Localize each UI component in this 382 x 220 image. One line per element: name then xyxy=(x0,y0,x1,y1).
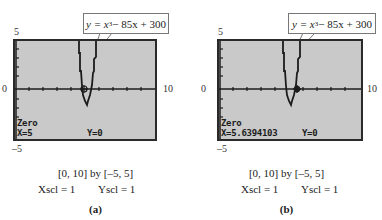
y-min-label: –5 xyxy=(12,143,22,154)
zero-mode-label: Zero xyxy=(221,119,241,128)
equation-callout: y = x3 − 85x + 300 xyxy=(83,13,169,34)
panel-b: y = x3 − 85x + 300 5 0 10 –5 xyxy=(191,0,382,220)
y-readout: Y=0 xyxy=(87,129,102,138)
x-min-label: 0 xyxy=(201,83,206,94)
equation-rest: − 85x + 300 xyxy=(318,18,372,30)
function-curve xyxy=(79,41,96,105)
x-min-label: 0 xyxy=(2,83,7,94)
equation-text: y = x xyxy=(86,18,109,30)
calculator-screen: Zero X=5.6394103 Y=0 xyxy=(217,39,363,141)
panel-label: (b) xyxy=(191,203,382,215)
panel-a: y = x3 − 85x + 300 5 0 10 –5 xyxy=(0,0,191,220)
y-max-label: 5 xyxy=(14,26,19,37)
yscl-label: Yscl = 1 xyxy=(301,183,338,195)
xscl-label: Xscl = 1 xyxy=(38,183,75,195)
window-range: [0, 10] by [–5, 5] xyxy=(191,167,382,179)
function-curve xyxy=(283,41,300,105)
x-readout: X=5.6394103 xyxy=(221,129,277,138)
y-readout: Y=0 xyxy=(302,129,317,138)
x-max-label: 10 xyxy=(367,83,377,94)
yscl-label: Yscl = 1 xyxy=(98,183,135,195)
xscl-label: Xscl = 1 xyxy=(241,183,278,195)
equation-rest: − 85x + 300 xyxy=(112,18,166,30)
x-max-label: 10 xyxy=(163,83,173,94)
calculator-screen: Zero X=5 Y=0 xyxy=(13,39,157,141)
zero-mode-label: Zero xyxy=(17,119,37,128)
window-range: [0, 10] by [–5, 5] xyxy=(0,167,191,179)
panel-label: (a) xyxy=(0,203,191,215)
x-readout: X=5 xyxy=(17,129,32,138)
y-max-label: 5 xyxy=(218,26,223,37)
equation-callout: y = x3 − 85x + 300 xyxy=(288,13,376,34)
y-min-label: –5 xyxy=(217,143,227,154)
equation-text: y = x xyxy=(292,18,315,30)
